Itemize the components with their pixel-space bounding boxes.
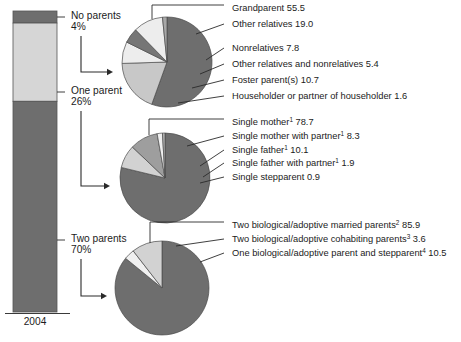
pie-connector-1 xyxy=(81,111,104,186)
bar-segment-label-2: Two parents xyxy=(71,233,127,244)
pie-leader-2-2 xyxy=(200,253,224,262)
pie-slice-label-2-0: Two biological/adoptive married parents2… xyxy=(232,219,420,230)
pie-connector-2 xyxy=(81,259,101,296)
bar-segment-label-1: One parent xyxy=(71,85,122,96)
two-parents-breakdown-pie xyxy=(115,241,209,335)
pie-slice-label-0-0: Grandparent 55.5 xyxy=(232,3,305,13)
pie-connector-0 xyxy=(81,36,107,72)
pie-leader-0-1 xyxy=(196,24,224,34)
bar-segment-two-parents xyxy=(13,101,57,312)
bar-segment-percent-1: 26% xyxy=(71,96,91,107)
pie-slice-label-2-2: One biological/adoptive parent and stepp… xyxy=(232,247,446,258)
pie-slice-label-1-4: Single stepparent 0.9 xyxy=(232,172,320,182)
pie-leader-1-0 xyxy=(149,119,224,135)
living-arrangements-figure: 2004No parents4%One parent26%Two parents… xyxy=(0,0,461,342)
pie-slice-label-0-5: Householder or partner of householder 1.… xyxy=(232,91,407,101)
bar-segment-one-parent xyxy=(13,23,57,101)
pie-leader-1-1 xyxy=(187,136,224,146)
pie-slice-label-2-1: Two biological/adoptive cohabiting paren… xyxy=(232,233,426,244)
pie-connector-arrow-2 xyxy=(101,293,107,299)
pie-leader-2-1 xyxy=(176,239,224,246)
no-parents-breakdown-pie xyxy=(122,17,212,107)
pie-slice-label-1-2: Single father1 10.1 xyxy=(232,144,308,155)
figure-canvas: 2004No parents4%One parent26%Two parents… xyxy=(0,0,461,342)
bar-segment-label-0: No parents xyxy=(71,10,121,21)
pie-slice-label-1-0: Single mother1 78.7 xyxy=(232,116,314,127)
pie-slice-label-0-2: Nonrelatives 7.8 xyxy=(232,43,299,53)
x-axis-label-2004: 2004 xyxy=(24,316,47,327)
pie-leader-2-0 xyxy=(150,222,224,243)
pie-connector-arrow-0 xyxy=(107,69,113,75)
bar-segment-no-parents xyxy=(13,11,57,23)
one-parent-breakdown-pie xyxy=(120,133,210,223)
pie-slice-label-0-1: Other relatives 19.0 xyxy=(232,19,313,29)
pie-slice-label-0-3: Other relatives and nonrelatives 5.4 xyxy=(232,59,379,69)
bar-segment-percent-0: 4% xyxy=(71,21,86,32)
pie-connector-arrow-1 xyxy=(104,183,110,189)
pie-slice-label-1-1: Single mother with partner1 8.3 xyxy=(232,130,360,141)
bar-segment-percent-2: 70% xyxy=(71,244,91,255)
pie-slice-label-0-4: Foster parent(s) 10.7 xyxy=(232,75,319,85)
pie-slice-label-1-3: Single father with partner1 1.9 xyxy=(232,157,354,168)
